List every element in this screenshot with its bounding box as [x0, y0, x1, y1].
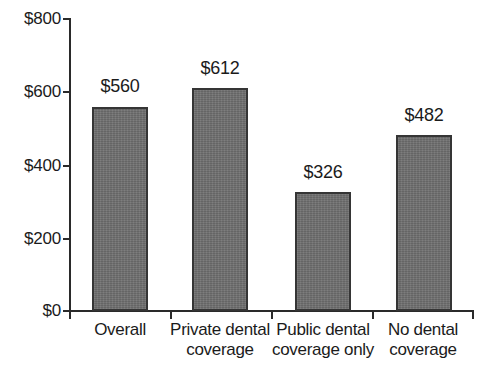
y-axis-label-400: $400 — [0, 157, 61, 174]
x-axis-tick-1 — [170, 310, 172, 319]
bar-value-public-dental-coverage-only: $326 — [283, 163, 363, 181]
x-axis-tick-3 — [372, 310, 374, 319]
y-axis-label-800: $800 — [0, 10, 61, 27]
x-axis-label-no-dental-coverage: No dental coverage — [372, 320, 474, 360]
x-axis-label-public-dental-coverage-only: Public dental coverage only — [268, 320, 378, 360]
y-axis-label-0-text: $0 — [3, 302, 61, 319]
x-axis-label-private-dental-coverage: Private dental coverage — [167, 320, 273, 360]
y-axis-label-600: $600 — [0, 83, 61, 100]
bar-chart: $800 $600 $400 $200 $0 $560 $612 $326 $4… — [0, 0, 485, 378]
y-axis-label-200-text: $200 — [3, 230, 61, 247]
x-axis-label-private-dental-coverage-line2: coverage — [167, 340, 273, 360]
x-axis-label-no-dental-coverage-line2: coverage — [372, 340, 474, 360]
y-axis-label-200: $200 — [0, 230, 61, 247]
x-axis-label-public-dental-coverage-only-line1: Public dental — [276, 320, 369, 339]
y-axis-label-0: $0 — [0, 302, 61, 319]
x-axis-tick-0 — [69, 310, 71, 319]
y-axis-label-400-text: $400 — [3, 157, 61, 174]
bar-value-overall: $560 — [80, 77, 160, 95]
y-axis-label-600-text: $600 — [3, 83, 61, 100]
bar-value-no-dental-coverage: $482 — [384, 106, 464, 124]
x-axis-tick-4 — [472, 310, 474, 319]
bar-value-private-dental-coverage: $612 — [180, 59, 260, 77]
x-axis-tick-2 — [271, 310, 273, 319]
x-axis-label-public-dental-coverage-only-line2: coverage only — [268, 340, 378, 360]
x-axis-label-overall: Overall — [67, 320, 173, 340]
y-axis-line — [69, 18, 71, 312]
x-axis-label-private-dental-coverage-line1: Private dental — [170, 320, 270, 339]
y-axis-label-800-text: $800 — [3, 10, 61, 27]
bar-private-dental-coverage — [192, 88, 248, 311]
bar-public-dental-coverage-only — [295, 192, 351, 311]
bar-overall — [92, 107, 148, 311]
bar-no-dental-coverage — [396, 135, 452, 311]
x-axis-label-no-dental-coverage-line1: No dental — [388, 320, 458, 339]
x-axis-label-overall-line1: Overall — [94, 320, 146, 339]
